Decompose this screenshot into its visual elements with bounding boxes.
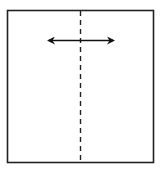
fold-diagram	[0, 0, 161, 172]
